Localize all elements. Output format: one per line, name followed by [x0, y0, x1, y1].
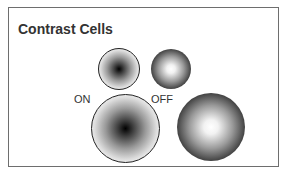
small-on-center-cell	[98, 48, 140, 90]
large-off-center-cell	[177, 93, 245, 161]
off-label: OFF	[151, 93, 173, 105]
small-off-center-cell	[151, 49, 191, 89]
figure-title: Contrast Cells	[18, 21, 113, 37]
on-label: ON	[74, 93, 91, 105]
large-on-center-cell	[91, 94, 160, 163]
